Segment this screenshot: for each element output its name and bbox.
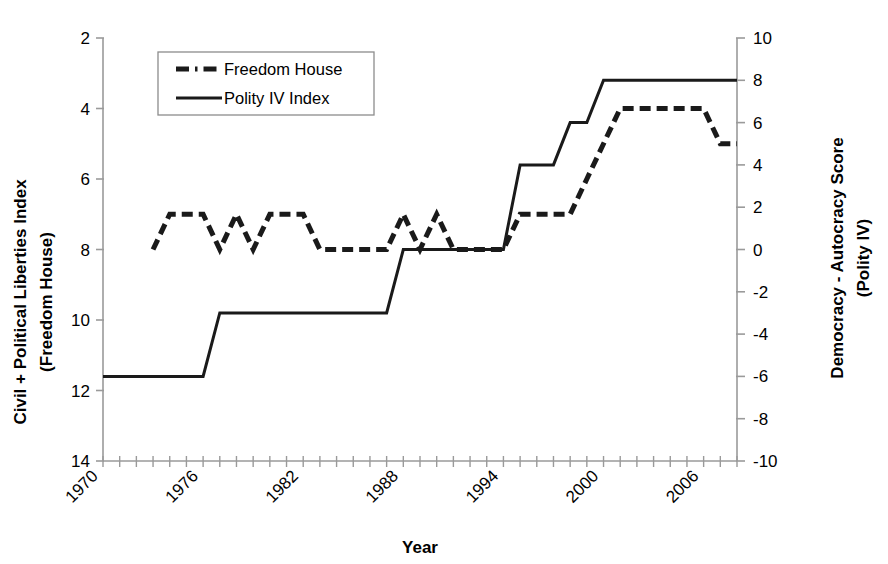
chart-legend: Freedom House Polity IV Index [158, 52, 374, 115]
y-axis-left-tick-label: 12 [71, 382, 90, 401]
y-axis-right-tick-label: -8 [753, 410, 768, 429]
y-axis-left-tick-label: 4 [81, 100, 90, 119]
y-axis-right-tick-label: 4 [753, 156, 762, 175]
y-axis-left-tick-label: 2 [81, 29, 90, 48]
chart-figure: 2468101214 1086420-2-4-6-8-10 1970197619… [0, 0, 888, 564]
y-axis-right-tick-label: 2 [753, 198, 762, 217]
y-axis-right-tick-label: -6 [753, 367, 768, 386]
y-axis-left-tick-label: 10 [71, 311, 90, 330]
y-axis-right-tick-label: -4 [753, 325, 768, 344]
y-axis-left-tick-label: 8 [81, 241, 90, 260]
y-axis-right-tick-label: 6 [753, 114, 762, 133]
x-axis-title: Year [402, 538, 438, 557]
y-axis-right-tick-label: 0 [753, 241, 762, 260]
legend-label-freedom-house: Freedom House [224, 60, 342, 78]
y-axis-left-title-line1: Civil + Political Liberties Index [11, 179, 30, 425]
legend-label-polity-iv: Polity IV Index [224, 89, 330, 107]
y-axis-right-tick-label: -2 [753, 283, 768, 302]
y-axis-right-tick-label: 8 [753, 71, 762, 90]
y-axis-left-tick-label: 6 [81, 170, 90, 189]
y-axis-left-title-line2: (Freedom House) [37, 232, 56, 372]
y-axis-right-tick-label: -10 [753, 452, 778, 471]
y-axis-right-tick-label: 10 [753, 29, 772, 48]
y-axis-right-title-line1: Democracy - Autocracy Score [828, 137, 847, 378]
y-axis-right-title-line2: (Polity IV) [854, 219, 873, 297]
line-chart: 2468101214 1086420-2-4-6-8-10 1970197619… [0, 0, 888, 564]
